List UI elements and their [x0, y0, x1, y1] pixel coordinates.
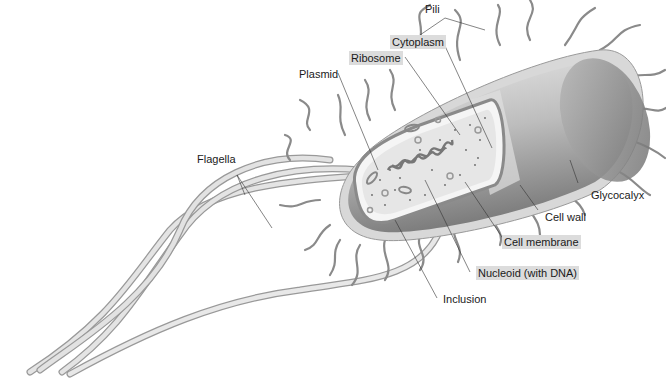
label-pili: Pili: [423, 2, 442, 16]
label-cytoplasm: Cytoplasm: [390, 35, 446, 49]
label-cell-membrane: Cell membrane: [502, 235, 581, 249]
label-ribosome: Ribosome: [349, 51, 403, 65]
label-inclusion: Inclusion: [441, 292, 488, 306]
label-plasmid: Plasmid: [297, 67, 340, 81]
label-cell-wall: Cell wall: [543, 210, 588, 224]
bacterium-diagram: [0, 0, 666, 384]
label-glycocalyx: Glycocalyx: [589, 188, 646, 202]
label-nucleoid: Nucleoid (with DNA): [476, 266, 579, 280]
label-flagella: Flagella: [195, 152, 238, 166]
